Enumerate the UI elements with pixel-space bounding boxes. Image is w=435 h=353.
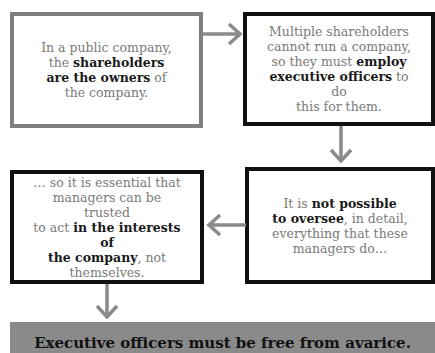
- arrow-down-icon: [327, 126, 355, 164]
- conclusion-banner: Executive officers must be free from ava…: [10, 322, 435, 353]
- step-box-trusted-managers: … so it is essential thatmanagers can be…: [10, 170, 204, 284]
- step-box-cannot-oversee: It is not possibleto oversee, in detail,…: [245, 167, 435, 284]
- arrow-left-icon: [206, 211, 246, 239]
- step-text: In a public company,the shareholdersare …: [41, 40, 172, 100]
- step-box-employ-officers: Multiple shareholderscannot run a compan…: [243, 12, 435, 126]
- step-text: Multiple shareholderscannot run a compan…: [261, 24, 417, 114]
- step-box-shareholders-owners: In a public company,the shareholdersare …: [10, 12, 203, 128]
- arrow-down-icon: [93, 284, 121, 320]
- step-text: … so it is essential thatmanagers can be…: [28, 175, 186, 280]
- conclusion-text: Executive officers must be free from ava…: [34, 334, 411, 352]
- arrow-right-icon: [203, 20, 243, 48]
- step-text: It is not possibleto oversee, in detail,…: [272, 196, 408, 256]
